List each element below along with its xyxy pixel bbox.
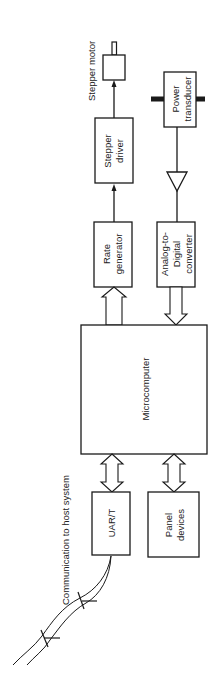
uart-label: UAR/T <box>106 509 117 538</box>
bus-arrow-micro-to-rate <box>102 287 126 325</box>
stepper-motor-label: Stepper motor <box>86 41 97 101</box>
amplifier-path <box>167 127 187 222</box>
adc-label-2: Digital <box>171 241 182 267</box>
rate-generator-label-2: generator <box>113 234 124 275</box>
arrow-driver-to-motor <box>112 80 117 118</box>
adc-label-3: converter <box>183 234 194 274</box>
bus-arrow-micro-uart <box>101 454 123 492</box>
communication-label: Communication to host system <box>60 475 71 605</box>
panel-devices-label-2: devices <box>175 509 186 541</box>
panel-devices-label-1: Panel <box>163 513 174 537</box>
bus-arrow-adc-to-micro <box>165 287 187 325</box>
power-transducer-label-2: transducer <box>182 77 193 122</box>
rate-generator-label-1: Rate <box>101 244 112 264</box>
block-diagram: Stepper motor Stepper driver Rate genera… <box>0 0 218 700</box>
stepper-motor <box>103 42 125 80</box>
microcomputer-label: Microcomputer <box>140 358 151 421</box>
stepper-driver-label-1: Stepper <box>102 134 113 167</box>
adc-label-1: Analog-to- <box>159 232 170 276</box>
power-transducer-label-1: Power <box>170 86 181 113</box>
arrow-rate-to-driver <box>112 184 117 222</box>
bus-arrow-micro-panel <box>163 454 185 492</box>
amplifier-triangle <box>167 172 187 191</box>
stepper-driver-label-2: driver <box>114 139 125 163</box>
